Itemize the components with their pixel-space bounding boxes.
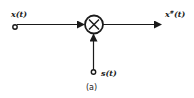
- output-label: x#(t): [165, 10, 185, 18]
- input-terminal-s: [91, 70, 95, 74]
- input-terminal-x: [13, 25, 17, 29]
- figure-caption: (a): [86, 84, 97, 92]
- carrier-label: s(t): [101, 69, 117, 77]
- output-label-arg: (t): [174, 9, 185, 19]
- input-label: x(t): [11, 10, 27, 18]
- multiplier-icon: [85, 16, 103, 34]
